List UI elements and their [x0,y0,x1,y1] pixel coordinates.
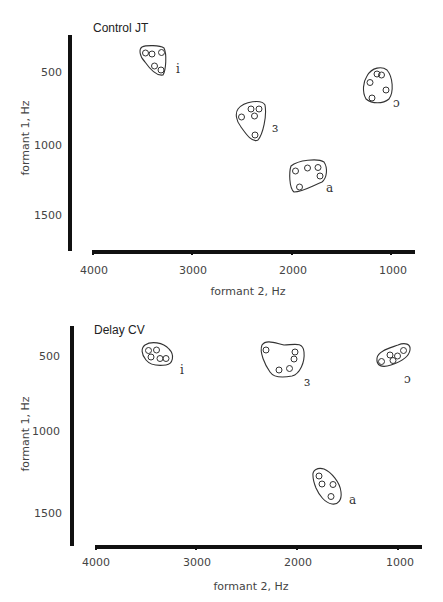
data-point [319,481,325,487]
panel-delay-cv: Delay CV 500 1000 1500 formant 1, Hz 400… [19,323,422,593]
data-point [248,106,254,112]
y-axis-title: formant 1, Hz [19,100,32,175]
data-point [252,132,258,138]
data-point [159,50,165,56]
data-point [287,366,293,372]
data-point [305,165,311,171]
vowel-label: ɔ [393,96,400,110]
data-point [256,106,262,112]
cluster-i: i [142,343,184,377]
data-point [292,349,298,355]
cluster-hull [363,68,392,103]
cluster-er: ɜ [261,342,310,389]
cluster-i: i [140,46,180,76]
y-axis-title: formant 1, Hz [19,396,32,471]
y-tick-label: 500 [41,66,62,79]
data-point [157,356,163,362]
cluster-hull [142,343,172,366]
data-point [330,482,336,488]
data-point [158,67,164,73]
y-tick-label: 1500 [34,507,62,520]
vowel-label: ɔ [404,372,411,386]
data-point [291,356,297,362]
cluster-hull [377,344,410,367]
vowel-label: a [326,181,333,195]
data-point [163,356,169,362]
y-tick-label: 1000 [32,425,60,438]
data-point [252,113,258,119]
x-axis-title: formant 2, Hz [213,580,288,593]
cluster-open-o: ɔ [363,68,400,110]
vowel-formant-figure: Control JT 500 1000 1500 formant 1, Hz 4… [0,0,443,602]
vowel-label: a [349,493,356,507]
x-tick-label: 2000 [279,264,307,277]
data-point [328,494,334,500]
data-point [297,184,303,190]
vowel-label: i [176,62,180,76]
y-tick-label: 500 [39,350,60,363]
data-point [154,347,160,353]
data-point [276,367,282,373]
vowel-label: ɜ [304,375,310,389]
data-point [315,165,321,171]
cluster-er: ɜ [236,102,278,141]
x-tick-label: 1000 [386,556,414,569]
cluster-a: a [290,160,333,195]
data-point [148,354,154,360]
data-point [146,348,152,354]
vowel-label: ɜ [272,121,278,135]
data-point [395,353,401,359]
data-point [379,359,385,365]
x-tick-label: 4000 [80,264,108,277]
data-point [152,63,158,69]
panel-title: Control JT [93,21,149,35]
data-point [239,114,245,120]
x-tick-label: 2000 [284,556,312,569]
x-tick-label: 3000 [179,264,207,277]
panel-title: Delay CV [94,323,145,337]
data-point [367,80,373,86]
data-point [143,50,149,56]
x-axis-title: formant 2, Hz [210,285,285,298]
data-point [263,347,269,353]
x-tick-label: 3000 [183,556,211,569]
cluster-open-o: ɔ [377,344,411,386]
panel-control-jt: Control JT 500 1000 1500 formant 1, Hz 4… [19,21,415,298]
data-point [387,352,393,358]
x-tick-label: 1000 [379,264,407,277]
data-point [317,173,323,179]
data-point [293,168,299,174]
x-tick-label: 4000 [82,556,110,569]
data-point [401,348,407,354]
vowel-label: i [180,363,184,377]
y-tick-label: 1500 [34,209,62,222]
cluster-a: a [313,468,356,507]
data-point [316,473,322,479]
data-point [383,87,389,93]
y-tick-label: 1000 [34,139,62,152]
data-point [369,95,375,101]
data-point [149,51,155,57]
